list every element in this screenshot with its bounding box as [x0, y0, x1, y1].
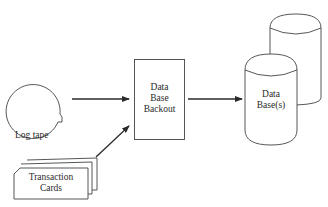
databases-label: Data Base(s) [245, 89, 297, 111]
backout-label: Data Base Backout [134, 82, 185, 115]
databases-label-line1: Data [245, 89, 297, 100]
databases-label-line2: Base(s) [245, 100, 297, 111]
backout-label-line1: Data [134, 82, 185, 93]
backout-label-line3: Backout [134, 104, 185, 115]
backout-label-line2: Base [134, 93, 185, 104]
log-tape-label: Log tape [15, 130, 49, 141]
transaction-cards-label-line2: Cards [14, 183, 88, 194]
arrow-cards-to-backout [96, 126, 129, 157]
transaction-cards-label: Transaction Cards [14, 172, 88, 194]
transaction-cards-label-line1: Transaction [14, 172, 88, 183]
